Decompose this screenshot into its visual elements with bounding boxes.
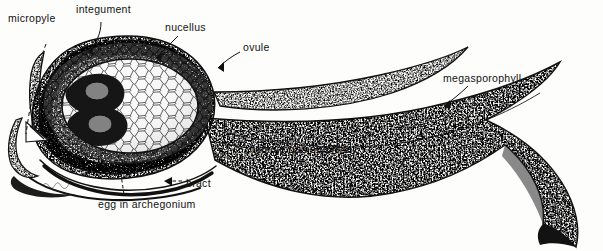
- label-egg-in-archegonium: egg in archegonium: [98, 198, 196, 210]
- arrow-bract: [164, 177, 172, 186]
- label-ovule: ovule: [243, 41, 270, 53]
- ovule-diagram-figure: micropyle integument nucellus ovule mega…: [0, 0, 603, 251]
- label-micropyle: micropyle: [8, 12, 56, 24]
- label-integument: integument: [76, 3, 131, 15]
- diagram-canvas: [0, 0, 603, 251]
- label-female-gametophyte: female gametophyte: [252, 143, 353, 155]
- label-megasporophyll: megasporophyll: [443, 72, 521, 84]
- label-nucellus: nucellus: [165, 21, 206, 33]
- label-bract: bract: [186, 177, 211, 189]
- sporophyll-spike: [214, 47, 468, 110]
